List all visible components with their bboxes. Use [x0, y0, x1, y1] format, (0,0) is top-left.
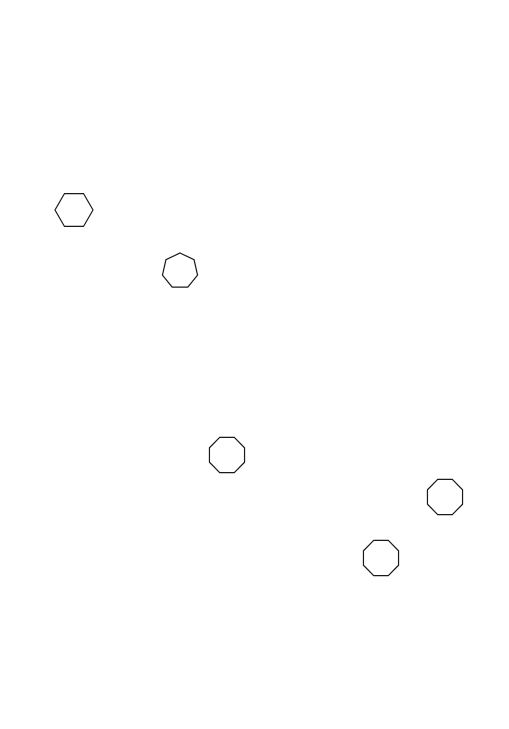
- shapes-canvas: [0, 0, 509, 729]
- background: [0, 0, 509, 729]
